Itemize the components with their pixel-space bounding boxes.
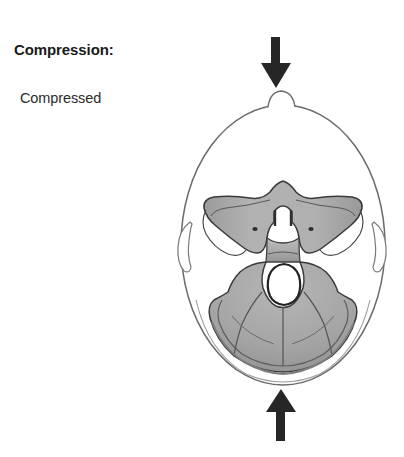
diagram-page: Compression: Compressed: [0, 0, 404, 457]
compression-arrow-bottom: [266, 389, 296, 441]
foramen-dot-left: [252, 227, 257, 231]
arrow-bottom-head: [266, 389, 296, 412]
foramen-dot-right: [308, 227, 313, 231]
compression-arrow-top: [261, 37, 291, 88]
arrow-top-head: [261, 63, 291, 88]
nose-bump: [268, 91, 295, 107]
foramen-magnum: [268, 264, 301, 305]
arrow-top-shaft: [271, 37, 280, 67]
arrow-bottom-shaft: [276, 410, 285, 441]
skull-compression-diagram: [0, 0, 404, 457]
